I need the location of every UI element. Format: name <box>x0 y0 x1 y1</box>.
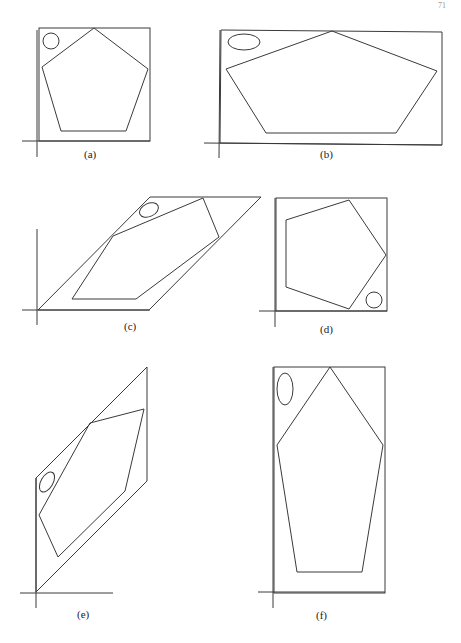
panel-b: (b) <box>204 30 442 161</box>
page-number: 71 <box>438 1 446 10</box>
circle <box>366 292 382 308</box>
frame <box>36 367 147 592</box>
frame <box>276 198 387 311</box>
pentagon <box>277 367 383 572</box>
frame <box>220 30 442 145</box>
panel-label: (a) <box>84 148 97 161</box>
panel-a: (a) <box>22 28 150 161</box>
ellipse <box>36 469 57 494</box>
panel-label: (b) <box>320 148 333 161</box>
pentagon <box>72 198 219 299</box>
panel-c: (c) <box>22 197 261 333</box>
panel-label: (c) <box>124 320 137 333</box>
panel-d: (d) <box>259 198 387 336</box>
circle <box>43 33 59 49</box>
panel-label: (d) <box>320 323 333 336</box>
transformations-figure: 71 (a) (b) (c) (d) <box>0 0 461 643</box>
ellipse <box>228 34 260 50</box>
panel-label: (f) <box>316 609 327 622</box>
pentagon <box>39 409 144 557</box>
frame <box>38 197 261 310</box>
panel-label: (e) <box>77 608 90 621</box>
frame <box>39 28 150 141</box>
ellipse <box>277 373 293 405</box>
panel-f: (f) <box>258 367 385 622</box>
panel-e: (e) <box>20 367 147 621</box>
pentagon <box>42 28 148 131</box>
